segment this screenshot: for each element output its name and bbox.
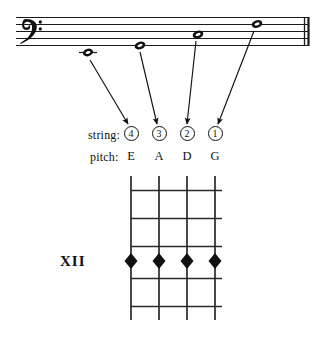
fret-marker-string-4 <box>125 253 138 269</box>
pitch-name-G: G <box>208 150 222 163</box>
fret-marker-string-2 <box>181 253 194 269</box>
arrow-D-to-string-2 <box>187 41 196 124</box>
pitch-name-D: D <box>180 150 194 163</box>
pitch-name-E: E <box>124 150 138 163</box>
note-head-A <box>134 40 147 51</box>
string-number-3[interactable]: 3 <box>152 126 167 141</box>
arrow-A-to-string-3 <box>140 52 157 124</box>
string-number-1[interactable]: 1 <box>208 126 223 141</box>
arrow-E-to-string-4 <box>90 60 128 124</box>
figure-root: string: pitch: 4 3 2 1 E A D G XII <box>0 0 327 346</box>
bass-clef-dot-lower <box>39 27 42 30</box>
string-row-label: string: <box>88 129 120 141</box>
fret-marker-group <box>125 253 222 269</box>
staff-group <box>16 17 309 46</box>
fret-marker-string-3 <box>153 253 166 269</box>
fret-marker-string-1 <box>209 253 222 269</box>
notation-figure-canvas <box>0 0 327 346</box>
pitch-row-label: pitch: <box>90 151 119 163</box>
bass-clef-dot-upper <box>39 20 42 23</box>
string-number-4[interactable]: 4 <box>124 126 139 141</box>
position-marker-label: XII <box>60 254 86 269</box>
note-head-E <box>79 47 97 57</box>
fretboard-group <box>131 176 222 320</box>
pitch-name-A: A <box>152 150 166 163</box>
note-head-G <box>251 19 264 30</box>
string-number-2[interactable]: 2 <box>180 126 195 141</box>
